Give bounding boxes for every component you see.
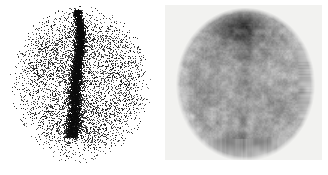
scan-panel-right: [164, 0, 328, 175]
scan-plate-background: [165, 5, 322, 160]
figure-scintigraphy-pair: [0, 0, 328, 175]
smoothed-grayscale-scan-image: [165, 5, 322, 160]
scan-panel-left: [0, 0, 164, 175]
sparse-count-scan-image: [0, 0, 164, 175]
